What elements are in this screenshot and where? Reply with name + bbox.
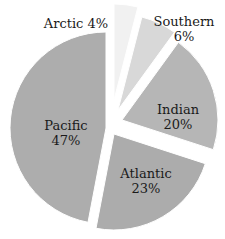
label-pacific: Pacific 47% <box>44 118 87 148</box>
label-southern: Southern 6% <box>154 14 215 44</box>
label-indian: Indian 20% <box>157 102 199 132</box>
label-arctic: Arctic 4% <box>44 16 108 31</box>
label-atlantic: Atlantic 23% <box>120 166 171 196</box>
